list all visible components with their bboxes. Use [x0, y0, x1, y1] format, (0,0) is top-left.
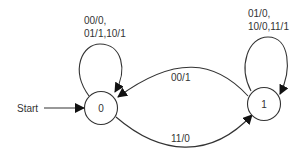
start-label: Start — [17, 103, 38, 114]
transition-label: 00/1 — [171, 72, 191, 83]
self-loop-arrow-icon — [245, 37, 287, 94]
transition-label: 11/0 — [171, 133, 190, 144]
transition-label-line2: 10/0,11/1 — [248, 21, 289, 32]
self-loop-arrow-icon — [79, 44, 121, 96]
state-label: 0 — [98, 103, 104, 114]
state-1: 1 — [248, 88, 281, 121]
start-transition: Start — [17, 103, 84, 114]
state-0: 0 — [85, 92, 118, 125]
transition-label-line1: 01/0, — [248, 8, 270, 19]
transition-0-to-0: 00/0, 01/1,10/1 — [79, 15, 126, 96]
transition-0-to-1: 11/0 — [116, 115, 252, 147]
state-label: 1 — [261, 99, 267, 110]
state-diagram: Start 00/0, 01/1,10/1 01/0, 10/0,11/1 00… — [0, 0, 304, 154]
transition-label-line2: 01/1,10/1 — [84, 28, 126, 39]
transition-1-to-1: 01/0, 10/0,11/1 — [245, 8, 289, 94]
transition-label-line1: 00/0, — [84, 15, 106, 26]
transition-1-to-0: 00/1 — [118, 67, 248, 97]
